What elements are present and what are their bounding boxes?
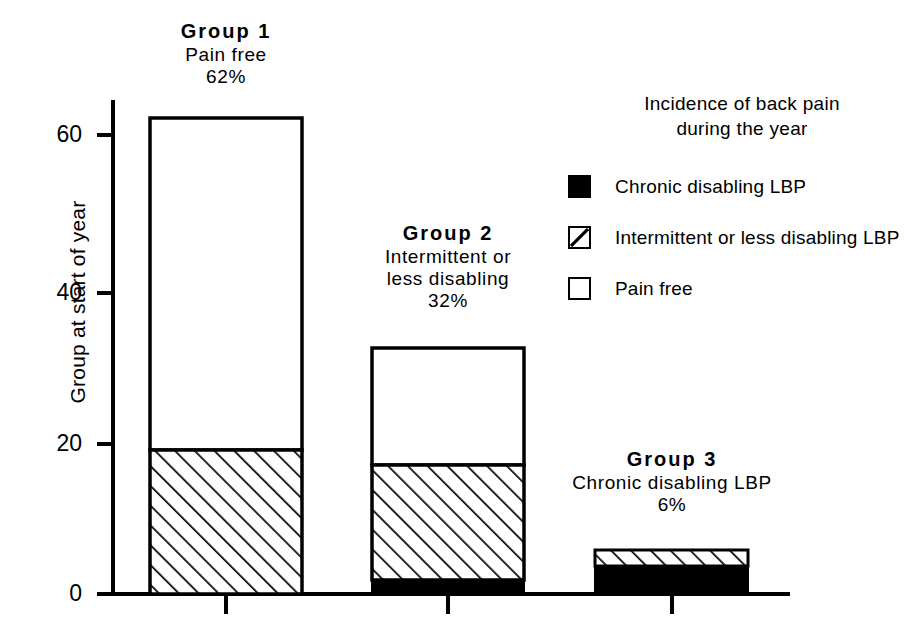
legend-label-chronic-disabling-lbp: Chronic disabling LBP <box>615 176 806 198</box>
group-3-annotation: Group 3 Chronic disabling LBP 6% <box>562 448 782 516</box>
group-1-annotation: Group 1 Pain free 62% <box>126 20 326 88</box>
legend-heading: Incidence of back pain during the year <box>568 92 916 141</box>
legend-item-intermittent-lbp[interactable]: Intermittent or less disabling LBP <box>568 226 916 249</box>
group-2-description-line-1: Intermittent or <box>348 246 548 268</box>
bar-segment-chronic-3 <box>595 566 748 594</box>
group-1-percent: 62% <box>126 66 326 88</box>
y-tick-label-60: 60 <box>30 123 82 146</box>
group-2-percent: 32% <box>348 290 548 312</box>
group-2-description-line-2: less disabling <box>348 268 548 290</box>
legend-swatch-white-icon <box>568 277 591 300</box>
legend-item-pain-free[interactable]: Pain free <box>568 277 916 300</box>
bar-segment-intermittent-3 <box>595 550 748 566</box>
legend-heading-line-1: Incidence of back pain <box>568 92 916 117</box>
bar-segment-intermittent-2 <box>372 465 524 580</box>
group-3-title: Group 3 <box>562 448 782 472</box>
bar-segment-pain-free-1 <box>150 118 302 450</box>
group-2-title: Group 2 <box>348 222 548 246</box>
y-tick-label-40: 40 <box>30 281 82 304</box>
y-tick-label-20: 20 <box>30 432 82 455</box>
group-2-annotation: Group 2 Intermittent or less disabling 3… <box>348 222 548 313</box>
legend-swatch-solid-black-icon <box>568 175 591 198</box>
legend-heading-line-2: during the year <box>568 117 916 142</box>
group-3-percent: 6% <box>562 494 782 516</box>
legend-swatch-hatched-icon <box>568 226 591 249</box>
stacked-bar-chart: Group at start of year 60 40 20 0 Group … <box>0 0 922 629</box>
y-tick-label-0: 0 <box>30 582 82 605</box>
bar-segment-intermittent-1 <box>150 450 302 594</box>
legend-label-intermittent-lbp: Intermittent or less disabling LBP <box>615 227 900 249</box>
bar-segment-chronic-2 <box>372 580 524 594</box>
legend-item-chronic-disabling-lbp[interactable]: Chronic disabling LBP <box>568 175 916 198</box>
bar-group-3 <box>595 550 748 594</box>
group-3-description-line-1: Chronic disabling LBP <box>562 472 782 494</box>
group-1-title: Group 1 <box>126 20 326 44</box>
bar-group-2 <box>372 348 524 594</box>
bar-group-1 <box>150 118 302 594</box>
group-1-description-line-1: Pain free <box>126 44 326 66</box>
chart-legend: Incidence of back pain during the year C… <box>568 92 916 300</box>
bar-segment-pain-free-2 <box>372 348 524 465</box>
legend-label-pain-free: Pain free <box>615 278 693 300</box>
